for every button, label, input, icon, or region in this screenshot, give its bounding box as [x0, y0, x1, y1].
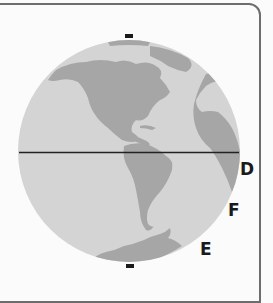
south-pole-marker: [126, 264, 134, 268]
label-f: F: [228, 202, 240, 219]
arctic-land: [108, 39, 150, 46]
label-d: D: [240, 161, 254, 178]
north-pole-marker: [125, 34, 133, 38]
label-e: E: [200, 241, 212, 258]
